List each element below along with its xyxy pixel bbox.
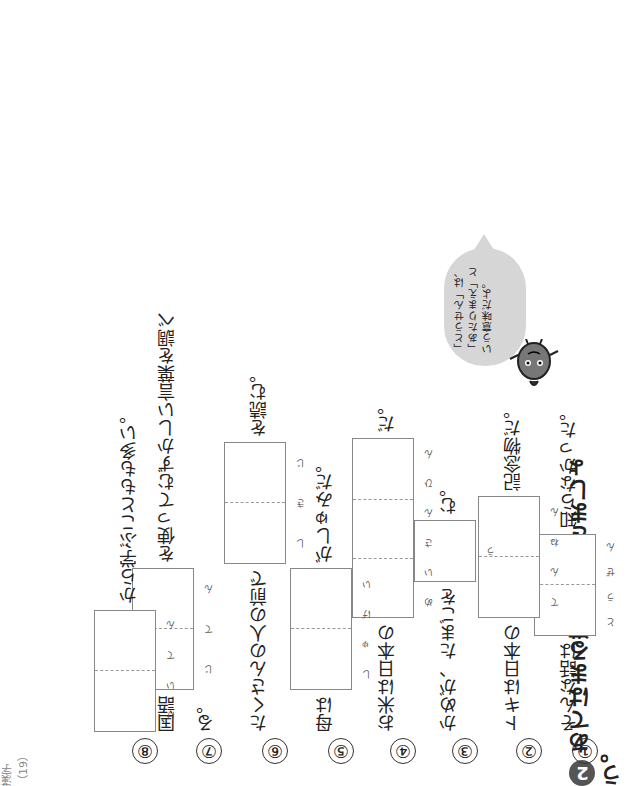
item-number-4: ④ — [390, 738, 416, 764]
furigana-1: とうぜん — [597, 535, 609, 635]
page-number: 漢字（19） — [0, 742, 30, 786]
furigana-3: う — [477, 521, 489, 581]
furigana-4: めいさんひん — [415, 439, 427, 617]
answer-box-8[interactable]: けいてん — [94, 610, 156, 732]
item-8: けいてん から学ぶこともも多い。 — [94, 312, 156, 732]
item-number-8: ⑧ — [132, 738, 158, 764]
item-5: 母は しゅげい がしゅみだ。 — [290, 312, 352, 732]
acorn-character-icon — [508, 339, 560, 391]
item-8-after: から学ぶこともも多い。 — [119, 406, 140, 604]
item-5-before: 母は — [315, 696, 336, 732]
furigana-5: しゅげい — [353, 569, 365, 689]
item-2-before: トキは日本の — [503, 624, 524, 732]
answer-box-5[interactable]: しゅげい — [290, 568, 352, 690]
item-number-7: ⑦ — [196, 738, 222, 764]
item-number-2: ② — [516, 738, 542, 764]
furigana-6: しきじ — [287, 443, 299, 563]
item-1-before: そんな話は — [559, 642, 580, 732]
furigana-7: じてん — [195, 569, 207, 689]
item-number-5: ⑤ — [328, 738, 354, 764]
furigana-8: けいてん — [157, 611, 169, 731]
answer-box-6[interactable]: しきじ — [224, 442, 286, 564]
item-6-before: たくさんの人の前で — [249, 570, 270, 732]
item-2-after: 記念物だ。 — [503, 401, 524, 491]
item-6-after: を読む。 — [249, 365, 270, 437]
speech-bubble-text: 「とうせん」は、「あたりまえ」という意味だよ。 — [453, 266, 493, 354]
item-6: たくさんの人の前で しきじ を読む。 — [224, 312, 286, 732]
item-number-3: ③ — [452, 738, 478, 764]
item-number-1: ① — [572, 738, 598, 764]
section-number-badge: 2 — [569, 760, 595, 786]
item-3-after: む。 — [439, 479, 460, 515]
item-4-after: だ。 — [377, 397, 398, 433]
furigana-2: てんねん — [541, 497, 553, 617]
item-4-before: お米は日本の — [377, 624, 398, 732]
item-number-6: ⑥ — [262, 738, 288, 764]
item-3-before: かめが、たまごを — [439, 588, 460, 732]
item-5-after: がしゅみだ。 — [315, 455, 336, 563]
worksheet-page: 2あてはまる漢字を書きましょう。 漢字（19） ① そんな話は とうぜん 知らな… — [0, 0, 626, 786]
